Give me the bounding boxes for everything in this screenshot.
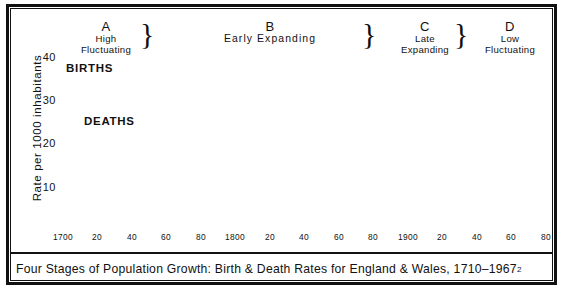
figure-container: Rate per 1000 inhabitants A High Fluctua…: [0, 0, 563, 291]
y-tick-20: 20: [34, 137, 56, 149]
y-tick-10: 10: [34, 181, 56, 193]
caption-divider: [10, 252, 553, 254]
caption-footnote-marker: 2: [517, 265, 522, 274]
y-tick-40: 40: [34, 51, 56, 63]
figure-caption: Four Stages of Population Growth: Birth …: [16, 258, 550, 280]
y-tick-30: 30: [34, 94, 56, 106]
caption-text: Four Stages of Population Growth: Birth …: [16, 262, 517, 276]
population-growth-chart: [62, 16, 546, 240]
plot-area: [62, 16, 546, 240]
